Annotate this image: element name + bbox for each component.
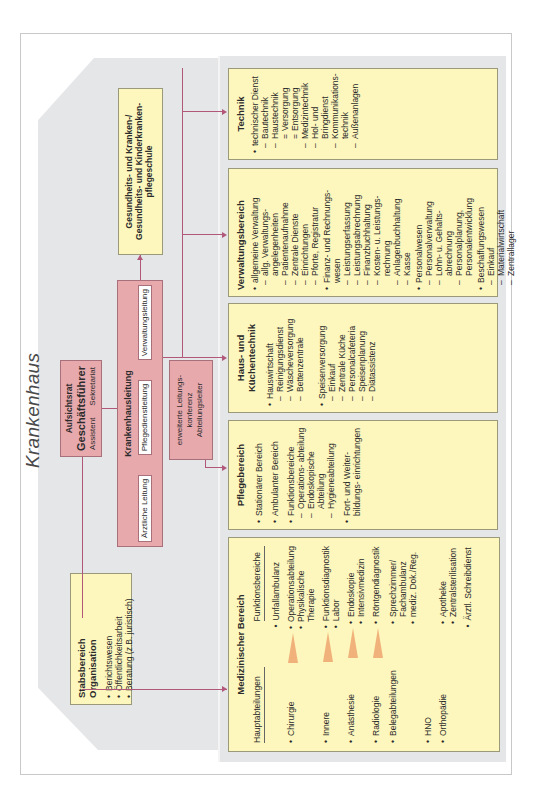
orange-arrow-icon <box>373 628 383 658</box>
medizin-row: BelegabteilungenSprechzimmer/ Fachambula… <box>388 546 418 743</box>
funktionsbereich: Endoskopie <box>346 546 356 624</box>
pflege-item: Stationärer Bereich <box>254 427 264 523</box>
assistent-label: Assistent <box>88 418 97 450</box>
hauptabteilung: Orthopädie <box>438 658 448 743</box>
haus-subitem: Diätassistenz <box>367 310 377 406</box>
medizin-row: AnästhesieEndoskopieIntensivmedizin <box>346 546 366 743</box>
funktionsbereich: Sprechzimmer/ Fachambulanz <box>388 546 408 624</box>
hauptabteilung: Belegabteilungen <box>388 658 398 743</box>
verwaltung-item: Personalwesen <box>414 175 424 290</box>
medizin-row: ChirurgieOperationsabteilungPhysikalisch… <box>286 546 316 743</box>
haus-item: Speisenversorgung <box>317 310 327 406</box>
funktionsbereich-group: EndoskopieIntensivmedizin <box>346 546 366 624</box>
funktionsbereich-group: Röntgendiagnostik <box>371 546 381 624</box>
medizin-row: HNO <box>423 546 433 743</box>
stabsbereich-box: Stabsbereich Organisation Berichtswesen … <box>70 573 132 705</box>
haus-subitem: Zentrale Küche <box>337 310 347 406</box>
hauptabteilung: Radiologie <box>371 658 381 743</box>
connector-stab <box>82 457 83 618</box>
funktionsbereich: Funktionsdiagnostik <box>321 546 331 628</box>
pflege-title: Pflegebereich <box>235 427 246 523</box>
technik-list: technischer DienstBautechnikHaustechnikV… <box>250 75 360 153</box>
pflegeschule-box: Gesundheits- und Kranken-/ Gesundheits- … <box>118 88 163 255</box>
funktionsbereich: Zentralsterilisation <box>448 546 458 624</box>
arrow-icon <box>222 232 227 238</box>
stab-item: Beratung (z.B. juristisch) <box>124 580 134 698</box>
sekretariat-label: Sekretariat <box>88 367 97 406</box>
funktionsbereich: mediz. Dok./Reg. <box>408 546 418 624</box>
haus-subitem: Reinigungsdienst <box>275 310 285 406</box>
funktionsbereich: Labor <box>331 546 341 628</box>
verwaltung-subitem: Einrichtungen <box>300 175 310 290</box>
medizin-title: Medizinischer Bereich <box>235 546 246 743</box>
verwaltung-subitem: Pforte, Registratur <box>310 175 320 290</box>
schule-line-3: pflegeschule <box>144 89 154 254</box>
leitungskonferenz-box: erweiterte Leitungs- konferenz Abteilung… <box>169 360 213 460</box>
haus-subitem: Speisenplanung <box>357 310 367 406</box>
connector-gf-khl <box>102 408 117 409</box>
verwaltung-subitem: Personalplanung, Personalentwicklung <box>454 175 474 290</box>
medizin-rows: UnfallambulanzChirurgieOperationsabteilu… <box>271 546 473 743</box>
hauptabteilung: Innere <box>321 662 331 743</box>
orange-arrow-icon <box>323 632 333 662</box>
col-header-funktionsbereiche: Funktionsbereiche <box>252 546 265 622</box>
haus-subitem: Wäscheversorgung <box>285 310 295 406</box>
verwaltung-subitem: Zentrallager <box>506 175 516 290</box>
arrow-icon <box>222 355 227 361</box>
orange-arrow-icon <box>348 628 358 658</box>
connector-tech-v <box>182 111 222 112</box>
verwaltung-item: Finanz- und Rechnungs- wesen <box>322 175 342 290</box>
verwaltung-box: Verwaltungsbereich allgemeine Verwaltung… <box>228 168 498 297</box>
technik-subitem: Haustechnik <box>270 75 280 153</box>
technik-box: Technik technischer DienstBautechnikHaus… <box>228 68 498 160</box>
verwaltung-subitem: allg. Verwaltungs- angelegenheiten <box>260 175 280 290</box>
verwaltung-subitem: Kosten- u. Leistungs- rechnung <box>372 175 392 290</box>
funktionsbereich-group: ApothekeZentralsterilisation <box>438 546 458 624</box>
funktionsbereich: Ärztl. Schreibdienst <box>463 546 473 628</box>
hauptabteilung: HNO <box>423 658 433 743</box>
connector-konf-pflege-v <box>205 467 222 468</box>
funktionsbereich-group: FunktionsdiagnostikLabor <box>321 546 341 628</box>
krankenhausleitung-label: Krankenhausleitung <box>123 281 134 546</box>
haus-title: Haus- und Küchentechnik <box>235 310 257 406</box>
org-chart: Krankenhaus Aufsichtsrat Geschäftsführer… <box>0 0 543 798</box>
medizin-row: OrthopädieApothekeZentralsterilisation <box>438 546 458 743</box>
verwaltung-subitem: Patientenaufnahme <box>280 175 290 290</box>
stabsbereich-title: Stabsbereich Organisation <box>76 580 98 698</box>
verwaltung-item: allgemeine Verwaltung <box>250 175 260 290</box>
pflege-box: Pflegebereich Stationärer BereichAmbulan… <box>228 420 498 530</box>
krankenhausleitung-box: Krankenhausleitung Ärztliche Leitung Pfl… <box>117 280 163 547</box>
arrow-icon <box>222 465 227 471</box>
funktionsbereich-group: Sprechzimmer/ Fachambulanzmediz. Dok./Re… <box>388 546 418 624</box>
haus-subitem: Personalcafeteria <box>347 310 357 406</box>
medizin-row: Ärztl. Schreibdienst <box>463 546 473 743</box>
technik-subitem: Versorgung <box>280 75 290 153</box>
pflege-subitem: Operations- abteilung <box>296 427 306 523</box>
pflege-item: Ambulanter Bereich <box>270 427 280 523</box>
verwaltung-subitem: Personalverwaltung <box>424 175 434 290</box>
konferenz-line-2: konferenz <box>185 361 195 459</box>
medizin-box: Medizinischer Bereich Hauptabteilungen F… <box>228 537 500 752</box>
medizin-row: Unfallambulanz <box>271 546 281 743</box>
verwaltung-title: Verwaltungsbereich <box>235 175 246 290</box>
haus-subitem: Bettenzentrale <box>295 310 305 406</box>
hauptabteilung: Anästhesie <box>346 658 356 743</box>
verwaltung-subitem: Zentrale Dienste <box>290 175 300 290</box>
funktionsbereich-group: Ärztl. Schreibdienst <box>463 546 473 628</box>
technik-subitem: Entsorgung <box>290 75 300 153</box>
diagram-title: Krankenhaus <box>22 353 44 468</box>
hauptabteilung: Chirurgie <box>286 663 296 743</box>
technik-subitem: Kommunikations- technik <box>330 75 350 153</box>
arrow-icon <box>137 255 143 260</box>
area-divider <box>218 56 220 762</box>
verwaltung-subitem: Anlagenbuchhaltung <box>392 175 402 290</box>
technik-item: technischer Dienst <box>250 75 260 153</box>
geschaeftsfuehrer-label: Geschäftsführer <box>75 361 88 456</box>
verwaltung-subitem: Finanzbuchhaltung <box>362 175 372 290</box>
verwaltung-subitem: Lohn- u. Gehalts- abrechnung <box>434 175 454 290</box>
schule-line-2: Gesundheits- und Kinderkranken- <box>134 89 144 254</box>
verwaltungsleitung: Verwaltungsleitung <box>138 285 152 360</box>
schule-line-1: Gesundheits- und Kranken-/ <box>124 89 134 254</box>
funktionsbereich-group: OperationsabteilungPhysikalische Therapi… <box>286 546 316 629</box>
arrow-icon <box>222 686 227 692</box>
